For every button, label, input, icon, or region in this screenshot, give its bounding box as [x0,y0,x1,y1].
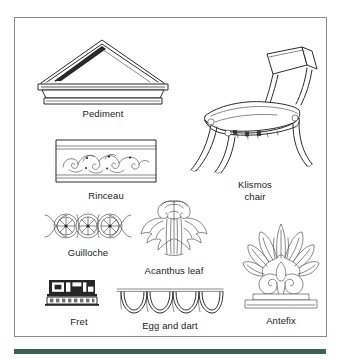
figure-label-egg-and-dart: Egg and dart [111,320,229,332]
figure-antefix: Antefix [227,218,335,327]
klismos-chair-icon [181,30,329,178]
figure-rinceau: Rinceau [53,137,159,202]
figure-label-klismos-chair: Klismos chair [181,179,329,202]
figure-label-pediment: Pediment [33,108,173,120]
acanthus-leaf-icon [119,194,229,262]
antefix-icon [227,218,335,312]
figure-klismos-chair: Klismos chair [181,30,329,202]
bottom-rule [14,349,326,354]
figure-egg-and-dart: Egg and dart [111,283,229,332]
figure-label-antefix: Antefix [227,315,335,327]
figure-pediment: Pediment [33,26,173,120]
egg-and-dart-icon [111,283,229,317]
figure-acanthus-leaf: Acanthus leaf [119,194,229,277]
illustration-plate-page: { "plate": { "title": "Greek Revival arc… [0,0,344,359]
pediment-icon [33,26,173,106]
plate-frame: Pediment [14,17,327,337]
rinceau-icon [53,137,159,187]
figure-label-acanthus-leaf: Acanthus leaf [119,265,229,277]
